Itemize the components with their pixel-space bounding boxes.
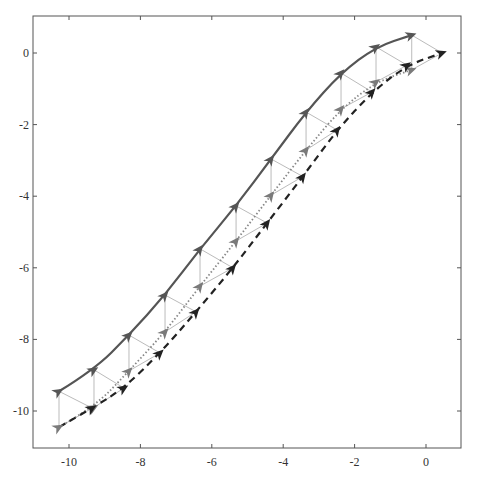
- x-tick-label: -6: [207, 455, 217, 469]
- connector-diagonal-lower: [200, 268, 233, 286]
- y-tick-label: 0: [23, 46, 29, 60]
- connector-diagonal-lower: [341, 92, 372, 109]
- x-tick-label: -10: [61, 455, 77, 469]
- series-lines: [59, 35, 442, 427]
- arrowhead-icon: [435, 47, 449, 60]
- arrow-markers: [51, 29, 448, 435]
- arrowhead-icon: [295, 169, 310, 184]
- connector-diagonal-lower: [376, 65, 407, 82]
- dotted-series-line: [59, 70, 412, 427]
- x-tick-label: -2: [350, 455, 360, 469]
- connector-diagonal: [59, 391, 92, 408]
- connector-diagonal: [376, 47, 407, 65]
- y-tick-label: -10: [13, 404, 29, 418]
- chart: -10-8-6-4-20 0-2-4-6-8-10: [0, 0, 478, 477]
- connector-diagonal: [165, 295, 196, 312]
- y-tick-label: -4: [19, 189, 29, 203]
- connector-diagonal-lower: [412, 53, 442, 70]
- x-tick-label: -4: [278, 455, 288, 469]
- arrowhead-icon: [364, 85, 379, 100]
- arrowhead-icon: [330, 123, 345, 138]
- connector-diagonal: [129, 335, 160, 353]
- dashed-series-line: [59, 53, 442, 427]
- connector-diagonal: [412, 35, 442, 53]
- connector-diagonal-lower: [94, 388, 124, 407]
- connector-diagonal-lower: [271, 177, 303, 196]
- y-axis: 0-2-4-6-8-10: [13, 46, 461, 418]
- y-tick-label: -6: [19, 261, 29, 275]
- y-tick-label: -8: [19, 332, 29, 346]
- connector-diagonal: [236, 206, 267, 223]
- x-tick-label: -8: [135, 455, 145, 469]
- plot-frame: [33, 16, 461, 448]
- connector-diagonal-lower: [236, 223, 267, 241]
- connector-lines: [59, 35, 442, 427]
- solid-series-line: [59, 35, 412, 391]
- connector-diagonal: [94, 370, 124, 388]
- y-tick-label: -2: [19, 118, 29, 132]
- connector-diagonal: [306, 112, 337, 130]
- x-tick-label: 0: [423, 455, 429, 469]
- arrowhead-icon: [116, 381, 131, 395]
